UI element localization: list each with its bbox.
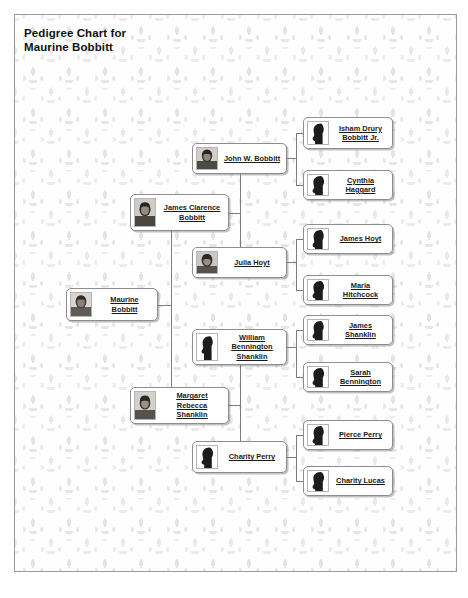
person-box-paternal-grandfather[interactable]: John W. Bobbitt (192, 143, 287, 174)
person-name: John W. Bobbitt (218, 144, 286, 173)
person-name: Julia Hoyt (218, 248, 286, 277)
person-box-father[interactable]: James Clarence Bobbitt (130, 194, 229, 231)
person-box-great-grandmother-1[interactable]: Cynthia Haggard (303, 170, 393, 200)
photo-portrait-icon (134, 198, 156, 227)
person-name-text: Pierce Perry (339, 430, 382, 440)
person-name-line1: William Bennington (231, 333, 272, 352)
page-title: Pedigree Chart for Maurine Bobbitt (24, 26, 204, 54)
person-name-text: Maria Hitchcock (334, 281, 387, 300)
connector-ggp3-trunk (296, 330, 297, 377)
person-box-subject[interactable]: Maurine Bobbitt (66, 288, 158, 321)
person-name: William Bennington Shanklin (218, 330, 286, 364)
person-box-great-grandfather-4[interactable]: Pierce Perry (303, 420, 393, 450)
person-name-text: Charity Lucas (336, 476, 385, 486)
person-name-text: Maurine Bobbitt (97, 295, 152, 314)
person-name-text: James Shanklin (334, 321, 387, 340)
person-name-line1: Isham Drury (339, 124, 382, 133)
pedigree-chart-page: Pedigree Chart for Maurine Bobbitt (0, 0, 468, 598)
person-name-text: Sarah Bennington (334, 368, 387, 387)
person-name: Maurine Bobbitt (92, 289, 157, 320)
person-box-paternal-grandmother[interactable]: Julia Hoyt (192, 247, 287, 278)
person-name-text: William Bennington Shanklin (223, 333, 281, 362)
person-name: James Hoyt (329, 225, 392, 253)
person-name: Margaret Rebecca Shanklin (156, 388, 228, 423)
silhouette-male-icon (307, 319, 329, 341)
photo-portrait-icon (70, 292, 92, 317)
page-title-line2: Maurine Bobbitt (24, 40, 204, 54)
person-box-great-grandfather-2[interactable]: James Hoyt (303, 224, 393, 254)
chart-layer: Pedigree Chart for Maurine Bobbitt (0, 0, 468, 598)
person-name-text: Isham Drury Bobbitt Jr. (339, 124, 382, 143)
person-name: Cynthia Haggard (329, 171, 392, 199)
connector-subject-stub (158, 305, 172, 306)
person-name-text: Charity Perry (229, 452, 275, 462)
person-name: Pierce Perry (329, 421, 392, 449)
person-name-text: James Hoyt (340, 234, 382, 244)
page-title-line1: Pedigree Chart for (24, 26, 204, 40)
silhouette-male-icon (307, 121, 329, 145)
person-name-line2: Bobbitt Jr. (342, 133, 379, 142)
person-name-line1: Margaret Rebecca (176, 391, 207, 410)
connector-ggp1-trunk (296, 133, 297, 185)
silhouette-male-icon (307, 424, 329, 446)
person-name: James Shanklin (329, 316, 392, 344)
person-box-mother[interactable]: Margaret Rebecca Shanklin (130, 387, 229, 424)
photo-portrait-icon (196, 251, 218, 274)
person-name-text: Margaret Rebecca Shanklin (161, 391, 223, 420)
person-name-line2: Shanklin (177, 410, 208, 419)
person-name-text: James Clarence Bobbitt (164, 203, 220, 222)
person-name: Sarah Bennington (329, 363, 392, 391)
silhouette-female-icon (307, 470, 329, 492)
silhouette-female-icon (307, 279, 329, 301)
person-box-great-grandmother-2[interactable]: Maria Hitchcock (303, 275, 393, 305)
person-box-great-grandmother-3[interactable]: Sarah Bennington (303, 362, 393, 392)
person-name-line2: Shanklin (237, 352, 268, 361)
person-name: Charity Perry (218, 442, 286, 472)
person-box-great-grandfather-1[interactable]: Isham Drury Bobbitt Jr. (303, 117, 393, 149)
silhouette-female-icon (307, 174, 329, 196)
person-name-line1: James Clarence (164, 203, 220, 212)
person-name-text: Julia Hoyt (234, 258, 269, 268)
connector-ggp2-trunk (296, 239, 297, 290)
connector-ggp4-trunk (296, 435, 297, 481)
person-name: Maria Hitchcock (329, 276, 392, 304)
person-name: Isham Drury Bobbitt Jr. (329, 118, 392, 148)
silhouette-male-icon (196, 333, 218, 361)
person-box-great-grandfather-3[interactable]: James Shanklin (303, 315, 393, 345)
silhouette-female-icon (307, 366, 329, 388)
person-box-maternal-grandmother[interactable]: Charity Perry (192, 441, 287, 473)
person-box-great-grandmother-4[interactable]: Charity Lucas (303, 466, 393, 496)
photo-portrait-icon (134, 391, 156, 420)
person-name-text: John W. Bobbitt (224, 154, 280, 164)
photo-portrait-icon (196, 147, 218, 170)
silhouette-male-icon (307, 228, 329, 250)
person-box-maternal-grandfather[interactable]: William Bennington Shanklin (192, 329, 287, 365)
person-name-text: Cynthia Haggard (334, 176, 387, 195)
person-name: Charity Lucas (329, 467, 392, 495)
silhouette-female-icon (196, 445, 218, 469)
person-name-line2: Bobbitt (179, 213, 205, 222)
person-name: James Clarence Bobbitt (156, 195, 228, 230)
